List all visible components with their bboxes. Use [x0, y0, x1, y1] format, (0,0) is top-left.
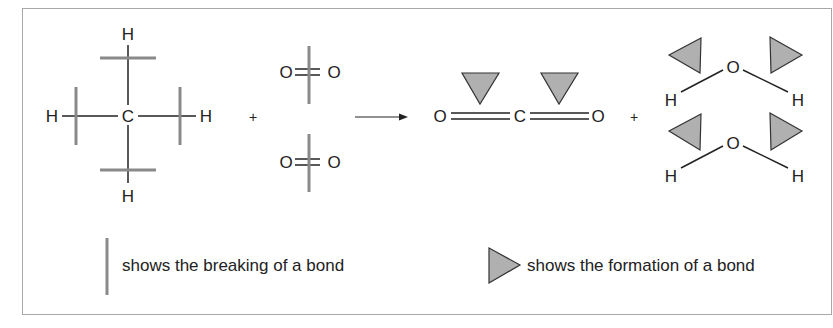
reaction-arrow [355, 114, 408, 121]
atom-c: C [122, 107, 134, 126]
oxygen-molecule-1: O O [279, 46, 340, 104]
atom-o: O [327, 63, 340, 82]
legend: shows the breaking of a bond shows the f… [107, 238, 755, 295]
bond-form-marker [541, 73, 578, 104]
water-molecule-1: O H H [665, 37, 804, 110]
atom-h-left: H [46, 107, 58, 126]
atom-h: H [665, 91, 677, 110]
atom-h-right: H [200, 107, 212, 126]
plus-sign-reactants: + [249, 109, 257, 125]
atom-o: O [327, 153, 340, 172]
plus-sign-products: + [630, 109, 638, 125]
legend-break-label: shows the breaking of a bond [122, 256, 344, 275]
atom-o: O [433, 107, 446, 126]
bond-form-marker [770, 37, 802, 73]
atom-o: O [279, 153, 292, 172]
water-molecule-2: O H H [665, 113, 804, 186]
atom-o: O [591, 107, 604, 126]
atom-h-top: H [122, 25, 134, 44]
atom-h: H [665, 167, 677, 186]
bond-form-marker [462, 73, 499, 104]
atom-h: H [792, 91, 804, 110]
methane-molecule: H C H H H [46, 25, 212, 206]
atom-o: O [279, 63, 292, 82]
atom-h: H [792, 167, 804, 186]
atom-o: O [726, 58, 739, 77]
legend-form-label: shows the formation of a bond [527, 256, 755, 275]
atom-o: O [726, 134, 739, 153]
bond-form-legend-icon [489, 248, 520, 283]
atom-h-bottom: H [122, 187, 134, 206]
oxygen-molecule-2: O O [279, 134, 340, 192]
bond-form-marker [669, 38, 701, 73]
carbon-dioxide-molecule: O C O [433, 73, 604, 126]
reaction-diagram: H C H H H + O O O O O C O + [0, 0, 833, 328]
bond-form-marker [669, 114, 701, 150]
bond-form-marker [770, 113, 802, 150]
atom-c: C [514, 107, 526, 126]
